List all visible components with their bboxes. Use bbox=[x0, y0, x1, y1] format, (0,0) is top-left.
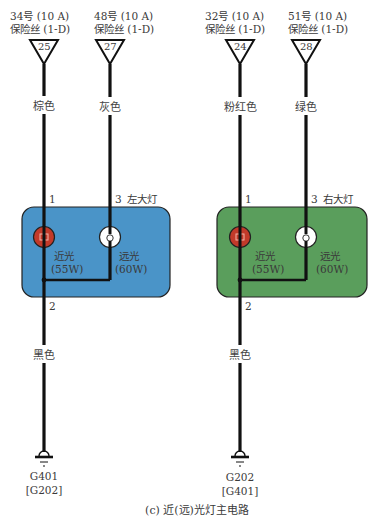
left-low-beam-bulb-icon bbox=[34, 226, 55, 248]
wire-label-right-ground: 黑色 bbox=[229, 345, 251, 363]
fuse-24-label-bottom: 保险丝 (1-D) bbox=[205, 23, 265, 36]
fuse-27-number: 27 bbox=[104, 40, 117, 53]
left-pin-2: 2 bbox=[49, 300, 56, 313]
wire-label-right-low: 粉红色 bbox=[224, 97, 257, 115]
fuse-25-label-top: 34号 (10 A) bbox=[10, 10, 69, 23]
figure-caption: (c) 近(远)光灯主电路 bbox=[145, 504, 249, 517]
left-high-beam-name: 远光 bbox=[119, 250, 139, 263]
left-headlamp-name: 左大灯 bbox=[127, 193, 157, 206]
right-high-beam-power: (60W) bbox=[316, 263, 348, 276]
fuse-28-label-top: 51号 (10 A) bbox=[288, 10, 347, 23]
right-headlamp-name: 右大灯 bbox=[323, 193, 353, 206]
fuse-28-label-bottom: 保险丝 (1-D) bbox=[288, 23, 348, 36]
ground-right-name: G202 bbox=[226, 471, 254, 484]
ground-g202-icon bbox=[231, 451, 249, 466]
left-pin-1: 1 bbox=[49, 193, 56, 206]
fuse-24-number: 24 bbox=[234, 40, 247, 53]
right-high-beam-name: 远光 bbox=[320, 250, 340, 263]
fuse-24-label-top: 32号 (10 A) bbox=[205, 10, 264, 23]
left-low-beam-power: (55W) bbox=[51, 263, 83, 276]
fuse-25-label-bottom: 保险丝 (1-D) bbox=[10, 23, 70, 36]
left-low-beam-name: 近光 bbox=[54, 250, 74, 263]
right-low-beam-power: (55W) bbox=[252, 263, 284, 276]
wire-label-left-low: 棕色 bbox=[33, 96, 55, 114]
left-pin-3: 3 bbox=[115, 193, 122, 206]
right-high-beam-bulb-icon bbox=[296, 226, 317, 248]
fuse-28-number: 28 bbox=[300, 40, 313, 53]
right-pin-2: 2 bbox=[245, 300, 252, 313]
fuse-27-label-top: 48号 (10 A) bbox=[94, 10, 153, 23]
right-low-beam-name: 近光 bbox=[255, 250, 275, 263]
ground-left-alt: [G202] bbox=[26, 484, 63, 497]
wire-label-left-ground: 黑色 bbox=[33, 345, 55, 363]
wire-label-right-high: 绿色 bbox=[295, 97, 317, 115]
ground-right-alt: [G401] bbox=[222, 485, 259, 498]
fuse-25-number: 25 bbox=[38, 40, 51, 53]
right-pin-3: 3 bbox=[311, 193, 318, 206]
right-low-beam-bulb-icon bbox=[230, 226, 251, 248]
left-high-beam-bulb-icon bbox=[100, 226, 121, 248]
ground-g401-icon bbox=[35, 451, 53, 466]
left-high-beam-power: (60W) bbox=[115, 263, 147, 276]
ground-left-name: G401 bbox=[30, 470, 58, 483]
fuse-27-label-bottom: 保险丝 (1-D) bbox=[94, 23, 154, 36]
wire-label-left-high: 灰色 bbox=[99, 97, 121, 115]
right-pin-1: 1 bbox=[245, 193, 252, 206]
